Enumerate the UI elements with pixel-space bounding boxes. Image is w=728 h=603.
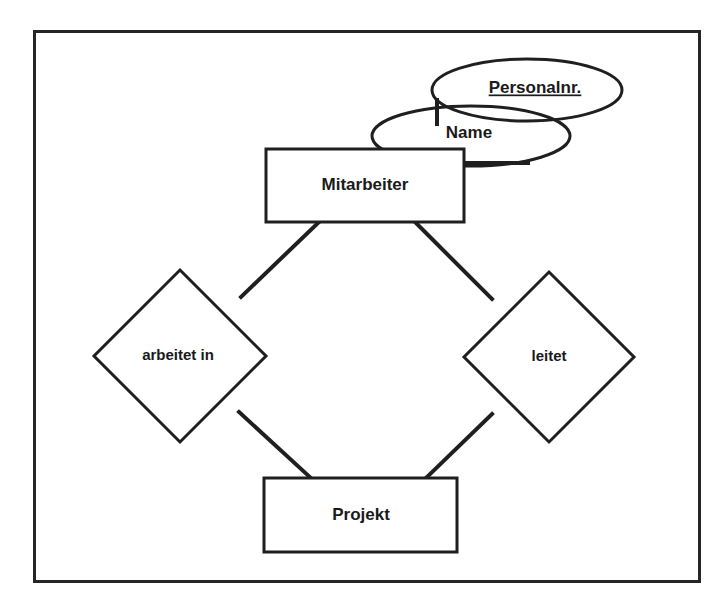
entity-label-mitarbeiter: Mitarbeiter [322,175,409,194]
attribute-label-name: Name [446,123,492,142]
er-diagram-canvas: Personalnr. Name Mitarbeiter Projekt arb… [0,0,728,603]
attribute-label-personalnr: Personalnr. [489,78,582,97]
connector-leitet-projekt [425,414,492,479]
connector-mitarbeiter-leitet [414,221,492,299]
connector-mitarbeiter-arbeitet-in [241,221,320,297]
relationship-label-arbeitet-in: arbeitet in [142,346,214,363]
relationship-label-leitet: leitet [531,347,566,364]
connector-arbeitet-in-projekt [239,412,312,479]
entity-label-projekt: Projekt [332,505,390,524]
